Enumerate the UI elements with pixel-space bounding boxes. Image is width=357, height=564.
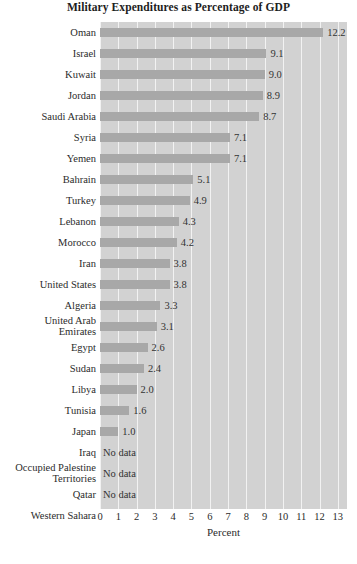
bar	[100, 280, 170, 289]
bar-row: 1.6	[100, 400, 347, 421]
bar	[100, 217, 179, 226]
category-label: Iran	[0, 253, 96, 274]
category-label-line: United Arab	[0, 316, 96, 327]
x-tick-label: 10	[278, 509, 289, 524]
bar-value-label: 3.8	[174, 254, 187, 273]
x-tick-label: 0	[97, 509, 102, 524]
bar-value-label: 2.4	[148, 359, 161, 378]
bar-row: 4.2	[100, 232, 347, 253]
chart-title: Military Expenditures as Percentage of G…	[0, 1, 357, 13]
no-data-label: No data	[103, 485, 136, 504]
bar	[100, 133, 230, 142]
bar-row: 4.3	[100, 211, 347, 232]
x-tick-label: 5	[189, 509, 194, 524]
x-tick-label: 9	[262, 509, 267, 524]
x-tick-label: 6	[207, 509, 212, 524]
bar	[100, 385, 137, 394]
bar-value-label: 8.9	[267, 86, 280, 105]
bar	[100, 259, 170, 268]
x-tick-label: 4	[171, 509, 176, 524]
category-label-line: Territories	[0, 474, 96, 485]
x-tick-label: 3	[152, 509, 157, 524]
bar-row: 9.0	[100, 64, 347, 85]
bar	[100, 154, 230, 163]
category-label: Morocco	[0, 232, 96, 253]
category-label: Libya	[0, 379, 96, 400]
bar-row: No data	[100, 484, 347, 505]
bar-value-label: 7.1	[234, 149, 247, 168]
bar	[100, 343, 148, 352]
bar-value-label: 8.7	[263, 107, 276, 126]
bar-row: 7.1	[100, 148, 347, 169]
bar	[100, 427, 118, 436]
bar-row: 3.3	[100, 295, 347, 316]
bar-row: 3.1	[100, 316, 347, 337]
x-axis-title: Percent	[100, 526, 347, 538]
category-label: Oman	[0, 22, 96, 43]
bar	[100, 238, 177, 247]
bar-row: 3.8	[100, 253, 347, 274]
bar-value-label: 7.1	[234, 128, 247, 147]
category-label: Iraq	[0, 442, 96, 463]
category-label: Turkey	[0, 190, 96, 211]
no-data-label: No data	[103, 443, 136, 462]
bar	[100, 196, 190, 205]
chart-container: Military Expenditures as Percentage of G…	[0, 0, 357, 564]
x-tick-label: 11	[296, 509, 306, 524]
bar-row: 8.7	[100, 106, 347, 127]
category-label: Lebanon	[0, 211, 96, 232]
bar-value-label: 2.6	[152, 338, 165, 357]
category-label: Sudan	[0, 358, 96, 379]
x-tick-label: 12	[314, 509, 325, 524]
bar-value-label: 4.3	[183, 212, 196, 231]
bar-row: No data	[100, 463, 347, 484]
bar-row: 9.1	[100, 43, 347, 64]
bar	[100, 175, 193, 184]
x-axis-ticks: 012345678910111213	[100, 509, 347, 525]
bar	[100, 301, 160, 310]
category-label: Algeria	[0, 295, 96, 316]
bar-row: 3.8	[100, 274, 347, 295]
category-label: Israel	[0, 43, 96, 64]
bar-row: 12.2	[100, 22, 347, 43]
category-label: Bahrain	[0, 169, 96, 190]
category-label-line: Emirates	[0, 327, 96, 338]
bar-row: 2.6	[100, 337, 347, 358]
bar	[100, 322, 157, 331]
bar-value-label: 2.0	[141, 380, 154, 399]
bar-value-label: 4.2	[181, 233, 194, 252]
bar-value-label: 3.8	[174, 275, 187, 294]
bar	[100, 112, 259, 121]
bar	[100, 70, 265, 79]
category-axis-labels: OmanIsraelKuwaitJordanSaudi ArabiaSyriaY…	[0, 22, 96, 509]
bar-row: 5.1	[100, 169, 347, 190]
no-data-label: No data	[103, 464, 136, 483]
bar-row: 4.9	[100, 190, 347, 211]
category-label: Western Sahara	[0, 505, 96, 526]
bar-row: 2.0	[100, 379, 347, 400]
bar-value-label: 4.9	[194, 191, 207, 210]
bar	[100, 91, 263, 100]
x-tick-label: 1	[116, 509, 121, 524]
bar-value-label: 9.0	[269, 65, 282, 84]
category-label: Tunisia	[0, 400, 96, 421]
category-label: Jordan	[0, 85, 96, 106]
category-label: Occupied PalestineTerritories	[0, 463, 96, 484]
bar-row: 7.1	[100, 127, 347, 148]
bar	[100, 406, 129, 415]
category-label: Syria	[0, 127, 96, 148]
bar-row: 2.4	[100, 358, 347, 379]
category-label-line: Occupied Palestine	[0, 463, 96, 474]
bar-row: 8.9	[100, 85, 347, 106]
category-label: United States	[0, 274, 96, 295]
bar-value-label: 1.0	[122, 422, 135, 441]
category-label: Qatar	[0, 484, 96, 505]
bar	[100, 49, 266, 58]
bar	[100, 28, 323, 37]
category-label: Yemen	[0, 148, 96, 169]
bar-value-label: 12.2	[327, 23, 345, 42]
category-label: Japan	[0, 421, 96, 442]
category-label: United ArabEmirates	[0, 316, 96, 337]
category-label: Saudi Arabia	[0, 106, 96, 127]
bar-value-label: 1.6	[133, 401, 146, 420]
